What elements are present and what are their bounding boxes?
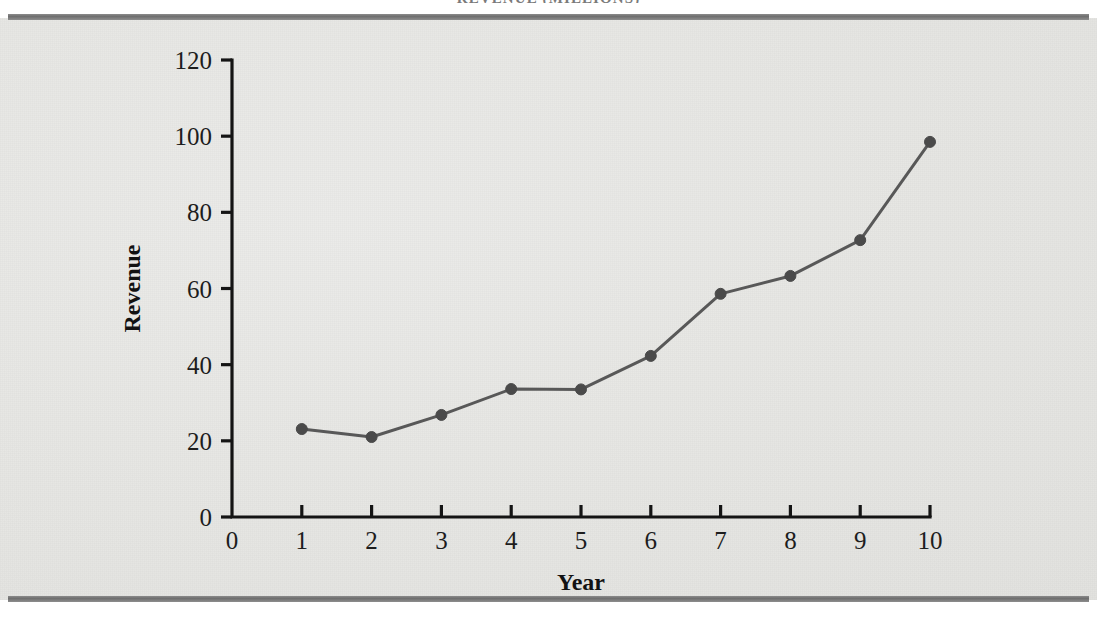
y-tick-label: 60 bbox=[187, 276, 212, 303]
x-tick-label: 4 bbox=[505, 527, 518, 554]
x-tick-label: 9 bbox=[854, 527, 867, 554]
x-tick-label: 3 bbox=[435, 527, 448, 554]
revenue-line-chart: 020406080100120012345678910YearRevenueYe… bbox=[0, 18, 1097, 600]
x-tick-label: 6 bbox=[645, 527, 658, 554]
data-point: Year 7: 58.6 bbox=[715, 288, 726, 299]
data-point: Year 9: 72.7 bbox=[855, 235, 866, 246]
data-point: Year 3: 26.8 bbox=[436, 409, 447, 420]
x-tick-label: 10 bbox=[918, 527, 943, 554]
x-tick-label: 8 bbox=[784, 527, 797, 554]
data-point: Year 2: 21 bbox=[366, 432, 377, 443]
y-tick-label: 120 bbox=[175, 47, 213, 74]
x-tick-label: 5 bbox=[575, 527, 588, 554]
y-axis-title: Revenue bbox=[119, 244, 145, 332]
data-point: Year 10: 98.5 bbox=[925, 136, 936, 147]
series-markers-revenue: Year 1: 23.1Year 2: 21Year 3: 26.8Year 4… bbox=[296, 136, 935, 442]
x-tick-label: 2 bbox=[365, 527, 378, 554]
y-axis: 020406080100120 bbox=[175, 47, 233, 531]
running-title-text: REVENUE (MILLIONS) bbox=[457, 0, 641, 3]
series-line-revenue bbox=[302, 142, 930, 437]
x-tick-label: 1 bbox=[296, 527, 309, 554]
data-point: Year 6: 42.3 bbox=[645, 350, 656, 361]
x-tick-label: 7 bbox=[714, 527, 727, 554]
data-point: Year 8: 63.3 bbox=[785, 270, 796, 281]
y-tick-label: 40 bbox=[187, 352, 212, 379]
y-tick-label: 80 bbox=[187, 199, 212, 226]
x-axis: 012345678910 bbox=[226, 505, 943, 554]
x-axis-title: Year bbox=[557, 569, 605, 595]
axis-spines bbox=[232, 60, 930, 517]
y-tick-label: 0 bbox=[200, 504, 213, 531]
data-point: Year 4: 33.6 bbox=[506, 384, 517, 395]
x-tick-label: 0 bbox=[226, 527, 239, 554]
chart-container: 020406080100120012345678910YearRevenueYe… bbox=[0, 18, 1097, 600]
y-tick-label: 100 bbox=[175, 123, 213, 150]
data-point: Year 1: 23.1 bbox=[296, 424, 307, 435]
scanned-page: REVENUE (MILLIONS) 020406080100120012345… bbox=[0, 0, 1097, 635]
y-tick-label: 20 bbox=[187, 428, 212, 455]
data-point: Year 5: 33.5 bbox=[576, 384, 587, 395]
running-title: REVENUE (MILLIONS) bbox=[0, 0, 1097, 3]
